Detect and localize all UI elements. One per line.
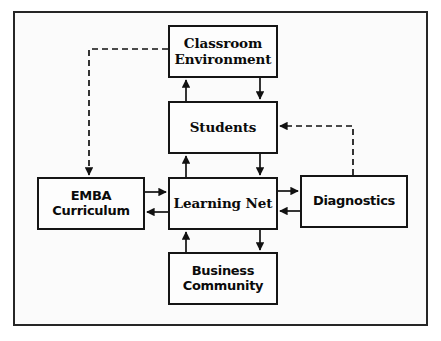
node-business-community[interactable]: Business Community [168,252,278,305]
node-label-classroom-environment: Classroom Environment [173,36,274,66]
node-label-business-community: Business Community [181,264,266,293]
diagram-canvas: Classroom Environment Students EMBA Curr… [0,0,441,341]
node-learning-net[interactable]: Learning Net [168,177,278,230]
node-label-learning-net: Learning Net [172,196,275,211]
node-diagnostics[interactable]: Diagnostics [300,175,408,228]
node-classroom-environment[interactable]: Classroom Environment [168,25,278,78]
connector-classroom-to-emba-feedback [89,49,168,175]
node-label-diagnostics: Diagnostics [311,194,397,209]
node-label-emba-curriculum: EMBA Curriculum [50,189,131,218]
node-emba-curriculum[interactable]: EMBA Curriculum [37,177,145,230]
connector-diagnostics-to-students-feedback [280,126,353,175]
node-students[interactable]: Students [168,101,278,154]
node-label-students: Students [188,120,259,135]
